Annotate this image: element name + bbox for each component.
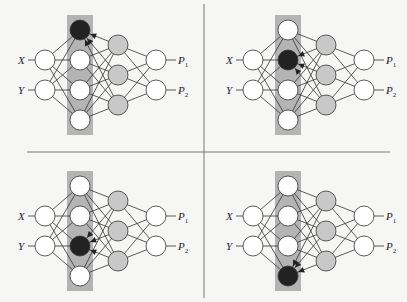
hidden-node (278, 110, 298, 130)
label-p2: P2 (177, 84, 189, 99)
input-node (35, 80, 55, 100)
label-p1: P1 (385, 54, 397, 69)
output-node (354, 206, 374, 226)
panel-bottom-right: XYP1P2 (225, 171, 397, 291)
hidden2-node (108, 221, 128, 241)
hidden2-node (316, 221, 336, 241)
hidden2-node (316, 251, 336, 271)
label-p1: P1 (177, 54, 189, 69)
hidden-node (278, 206, 298, 226)
hidden-node (70, 206, 90, 226)
input-node (243, 236, 263, 256)
label-y: Y (18, 84, 26, 96)
label-x: X (17, 210, 26, 222)
active-hidden-node (70, 20, 90, 40)
input-node (243, 206, 263, 226)
output-node (146, 50, 166, 70)
hidden-node (278, 20, 298, 40)
label-y: Y (226, 240, 234, 252)
edges (253, 30, 364, 120)
neural-network-figure: XYP1P2XYP1P2XYP1P2XYP1P2 (0, 0, 407, 302)
hidden2-node (316, 191, 336, 211)
label-x: X (225, 54, 234, 66)
output-node (354, 236, 374, 256)
active-hidden-node (278, 50, 298, 70)
label-y: Y (18, 240, 26, 252)
label-p2: P2 (385, 240, 397, 255)
hidden-node (278, 176, 298, 196)
output-node (146, 206, 166, 226)
output-node (354, 80, 374, 100)
active-hidden-node (278, 266, 298, 286)
hidden-node (70, 110, 90, 130)
output-node (354, 50, 374, 70)
hidden-node (70, 176, 90, 196)
hidden-node (70, 266, 90, 286)
hidden-node (278, 80, 298, 100)
hidden-node (278, 236, 298, 256)
label-y: Y (226, 84, 234, 96)
output-node (146, 80, 166, 100)
hidden2-node (316, 65, 336, 85)
input-node (35, 236, 55, 256)
hidden2-node (108, 191, 128, 211)
label-p2: P2 (177, 240, 189, 255)
hidden2-node (108, 65, 128, 85)
label-p2: P2 (385, 84, 397, 99)
label-p1: P1 (385, 210, 397, 225)
label-x: X (17, 54, 26, 66)
hidden2-node (316, 95, 336, 115)
hidden-node (70, 80, 90, 100)
active-hidden-node (70, 236, 90, 256)
input-node (243, 50, 263, 70)
hidden2-node (108, 251, 128, 271)
input-node (35, 206, 55, 226)
hidden-node (70, 50, 90, 70)
edges (45, 186, 156, 276)
input-node (35, 50, 55, 70)
input-node (243, 80, 263, 100)
output-node (146, 236, 166, 256)
hidden2-node (108, 95, 128, 115)
panel-bottom-left: XYP1P2 (17, 171, 189, 291)
edges (253, 186, 364, 276)
hidden2-node (108, 35, 128, 55)
edges (45, 30, 156, 120)
panel-top-left: XYP1P2 (17, 15, 189, 135)
panel-top-right: XYP1P2 (225, 15, 397, 135)
label-x: X (225, 210, 234, 222)
label-p1: P1 (177, 210, 189, 225)
hidden2-node (316, 35, 336, 55)
